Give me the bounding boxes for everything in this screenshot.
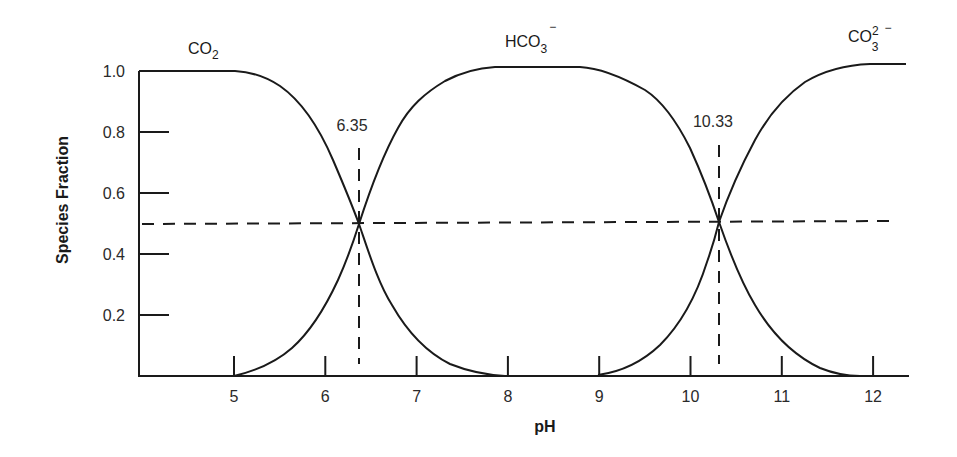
half-fraction-dashed-line	[142, 221, 895, 224]
x-tick-label: 5	[230, 388, 239, 405]
co2-species-label: CO2	[188, 40, 219, 62]
co3-label-charge: −	[884, 21, 891, 35]
curves	[139, 64, 906, 376]
pka2-label: 10.33	[693, 113, 733, 130]
co3-label-main: CO	[848, 28, 872, 45]
x-tick-label: 11	[773, 388, 790, 405]
y-ticks: 0.20.40.60.81.0	[103, 63, 169, 324]
pka1-label: 6.35	[336, 117, 367, 134]
species-fraction-chart: 0.20.40.60.81.0 56789101112 6.35 10.33 C…	[0, 0, 957, 457]
x-ticks: 56789101112	[230, 356, 883, 405]
x-tick-label: 7	[412, 388, 421, 405]
y-tick-label: 0.6	[103, 185, 125, 202]
x-tick-label: 10	[682, 388, 700, 405]
hco3-species-label: HCO3−	[505, 20, 556, 56]
x-tick-label: 8	[503, 388, 512, 405]
co3-label-superscript: 2	[872, 24, 879, 38]
co3-curve	[598, 64, 906, 375]
hco3-label-subscript: 3	[541, 42, 548, 56]
x-tick-label: 12	[864, 388, 882, 405]
co2-label-main: CO	[188, 40, 212, 57]
y-tick-label: 0.8	[103, 124, 125, 141]
co3-species-label: CO23−	[848, 21, 891, 54]
reference-lines	[142, 145, 895, 364]
y-tick-label: 1.0	[103, 63, 125, 80]
co2-label-subscript: 2	[212, 48, 219, 62]
x-tick-label: 6	[321, 388, 330, 405]
x-tick-label: 9	[595, 388, 604, 405]
co3-label-subscript: 3	[872, 40, 879, 54]
hco3-label-charge: −	[549, 20, 556, 34]
y-tick-label: 0.4	[103, 246, 125, 263]
hco3-label-main: HCO	[505, 33, 541, 50]
y-axis-label: Species Fraction	[54, 136, 71, 264]
x-axis-label: pH	[534, 418, 555, 435]
y-tick-label: 0.2	[103, 307, 125, 324]
